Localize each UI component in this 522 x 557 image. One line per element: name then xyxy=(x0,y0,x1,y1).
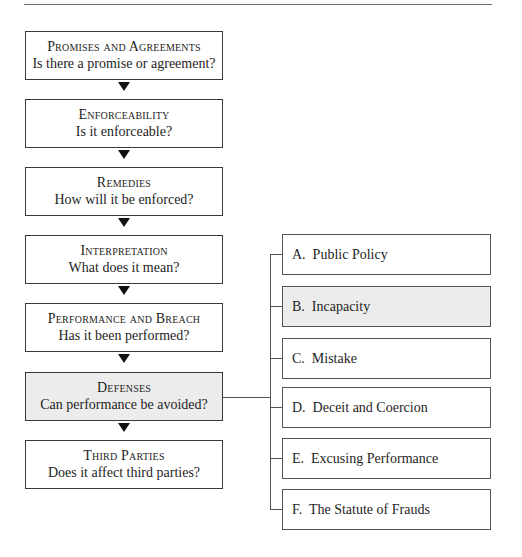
bracket-tick xyxy=(270,458,282,459)
step-question: What does it mean? xyxy=(26,259,222,277)
step-question: Is it enforceable? xyxy=(26,123,222,141)
down-arrow-icon xyxy=(118,82,130,91)
step-question: Does it affect third parties? xyxy=(26,464,222,482)
defense-deceit-and-coercion: D. Deceit and Coercion xyxy=(282,387,491,428)
step-title: Interpretation xyxy=(26,242,222,259)
down-arrow-icon xyxy=(118,286,130,295)
defenses-bracket-line xyxy=(270,254,271,510)
step-question: Has it been performed? xyxy=(26,327,222,345)
step-defenses: Defenses Can performance be avoided? xyxy=(25,372,223,421)
step-question: Is there a promise or agreement? xyxy=(26,55,222,73)
step-title: Defenses xyxy=(26,379,222,396)
step-title: Performance and Breach xyxy=(26,310,222,327)
step-third-parties: Third Parties Does it affect third parti… xyxy=(25,440,223,489)
step-performance-and-breach: Performance and Breach Has it been perfo… xyxy=(25,303,223,352)
step-title: Third Parties xyxy=(26,447,222,464)
step-question: Can performance be avoided? xyxy=(26,396,222,414)
step-remedies: Remedies How will it be enforced? xyxy=(25,167,223,216)
defense-label: D. Deceit and Coercion xyxy=(292,388,428,427)
defense-public-policy: A. Public Policy xyxy=(282,234,491,275)
defense-label: F. The Statute of Frauds xyxy=(292,490,430,529)
bracket-tick xyxy=(270,306,282,307)
step-question: How will it be enforced? xyxy=(26,191,222,209)
step-title: Promises and Agreements xyxy=(26,38,222,55)
defense-excusing-performance: E. Excusing Performance xyxy=(282,438,491,479)
down-arrow-icon xyxy=(118,423,130,432)
step-promises-and-agreements: Promises and Agreements Is there a promi… xyxy=(25,31,223,80)
step-enforceability: Enforceability Is it enforceable? xyxy=(25,99,223,148)
down-arrow-icon xyxy=(118,218,130,227)
defense-label: E. Excusing Performance xyxy=(292,439,438,478)
defense-label: B. Incapacity xyxy=(292,287,370,326)
defense-label: C. Mistake xyxy=(292,339,357,378)
defense-incapacity: B. Incapacity xyxy=(282,286,491,327)
step-interpretation: Interpretation What does it mean? xyxy=(25,235,223,284)
bracket-tick xyxy=(270,254,282,255)
defense-mistake: C. Mistake xyxy=(282,338,491,379)
down-arrow-icon xyxy=(118,354,130,363)
defense-statute-of-frauds: F. The Statute of Frauds xyxy=(282,489,491,530)
top-rule xyxy=(24,4,492,5)
bracket-tick xyxy=(270,407,282,408)
defense-label: A. Public Policy xyxy=(292,235,388,274)
step-title: Enforceability xyxy=(26,106,222,123)
step-title: Remedies xyxy=(26,174,222,191)
defenses-connector xyxy=(223,397,270,398)
bracket-tick xyxy=(270,509,282,510)
down-arrow-icon xyxy=(118,150,130,159)
bracket-tick xyxy=(270,358,282,359)
